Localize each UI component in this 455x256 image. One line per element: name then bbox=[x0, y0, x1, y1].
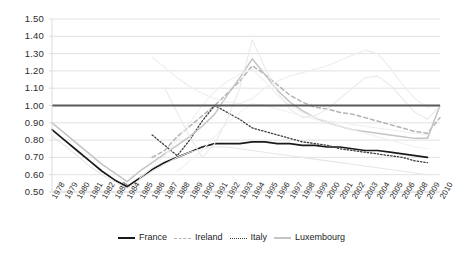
y-tick-label: 1.00 bbox=[18, 101, 44, 111]
legend-label: Ireland bbox=[195, 232, 223, 242]
legend-swatch-icon bbox=[174, 238, 191, 239]
legend-label: France bbox=[139, 232, 167, 242]
y-tick-label: 0.60 bbox=[18, 170, 44, 180]
legend-label: Luxembourg bbox=[295, 232, 345, 242]
y-tick-label: 0.80 bbox=[18, 135, 44, 145]
y-tick-label: 0.50 bbox=[18, 187, 44, 197]
series-line-luxembourg bbox=[52, 59, 440, 182]
legend-swatch-icon bbox=[118, 237, 135, 239]
legend-swatch-icon bbox=[274, 237, 291, 239]
legend-entry-luxembourg[interactable]: Luxembourg bbox=[274, 232, 345, 242]
series-lines bbox=[52, 40, 440, 189]
y-tick-label: 1.20 bbox=[18, 66, 44, 76]
legend-swatch-icon bbox=[230, 238, 247, 239]
chart-legend: FranceIrelandItalyLuxembourg bbox=[118, 232, 345, 242]
y-tick-label: 1.30 bbox=[18, 49, 44, 59]
legend-entry-ireland[interactable]: Ireland bbox=[174, 232, 223, 242]
legend-entry-italy[interactable]: Italy bbox=[230, 232, 268, 242]
y-tick-label: 1.40 bbox=[18, 31, 44, 41]
y-tick-label: 1.10 bbox=[18, 83, 44, 93]
legend-entry-france[interactable]: France bbox=[118, 232, 167, 242]
series-line-other-3 bbox=[152, 50, 440, 107]
y-tick-label: 0.90 bbox=[18, 118, 44, 128]
legend-label: Italy bbox=[251, 232, 268, 242]
y-tick-label: 1.50 bbox=[18, 14, 44, 24]
y-tick-label: 0.70 bbox=[18, 152, 44, 162]
